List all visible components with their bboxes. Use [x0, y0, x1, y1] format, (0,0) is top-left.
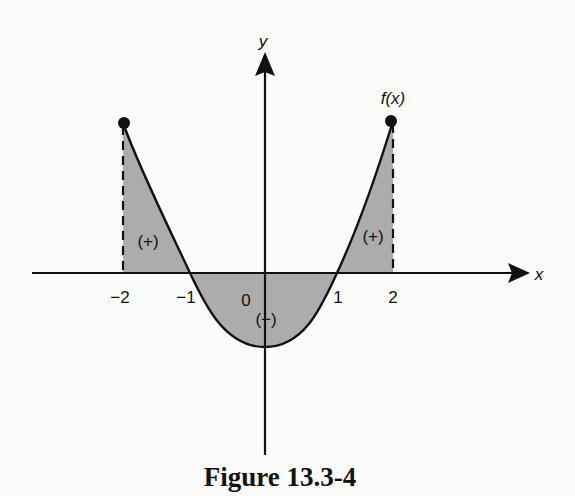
region-label-center: (−) — [255, 311, 276, 328]
endpoint-left — [118, 117, 130, 129]
graph — [0, 0, 575, 496]
tick-label-pos2: 2 — [388, 289, 397, 306]
tick-label-neg1: −1 — [176, 289, 195, 306]
figure: y x f(x) −2 −1 0 1 2 (+) (−) (+) Figure … — [0, 0, 575, 496]
region-label-right: (+) — [362, 228, 383, 245]
tick-label-zero: 0 — [241, 292, 250, 309]
curve-label: f(x) — [381, 90, 406, 107]
y-axis-label: y — [259, 33, 268, 50]
tick-label-neg2: −2 — [110, 289, 129, 306]
endpoint-right — [385, 115, 397, 127]
region-label-left: (+) — [137, 233, 158, 250]
figure-caption: Figure 13.3-4 — [0, 462, 560, 493]
x-axis-label: x — [535, 266, 544, 283]
tick-label-pos1: 1 — [333, 289, 342, 306]
